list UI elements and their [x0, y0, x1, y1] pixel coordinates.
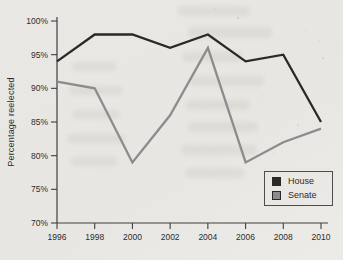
- x-tick-label: 2002: [161, 232, 180, 242]
- y-tick-label: 100%: [26, 16, 48, 26]
- y-tick-label: 80%: [31, 151, 48, 161]
- y-tick-label: 95%: [31, 50, 48, 60]
- senate-line: [57, 48, 321, 162]
- x-tick-label: 2010: [312, 232, 331, 242]
- reelection-line-chart: Percentage reelected 70%75%80%85%90%95%1…: [0, 0, 343, 260]
- x-tick-label: 2000: [123, 232, 142, 242]
- legend-item-senate: Senate: [272, 191, 327, 200]
- x-tick-label: 1996: [48, 232, 67, 242]
- y-tick-label: 90%: [31, 83, 48, 93]
- x-tick-label: 1998: [85, 232, 104, 242]
- x-tick-label: 2006: [236, 232, 255, 242]
- house-line: [57, 35, 321, 123]
- y-tick-label: 75%: [31, 184, 48, 194]
- x-tick-label: 2008: [274, 232, 293, 242]
- legend: House Senate: [264, 171, 333, 206]
- scanned-page: Percentage reelected 70%75%80%85%90%95%1…: [0, 0, 343, 260]
- y-tick-label: 85%: [31, 117, 48, 127]
- y-tick-label: 70%: [31, 218, 48, 228]
- y-axis-title: Percentage reelected: [6, 77, 16, 167]
- legend-item-house: House: [272, 177, 327, 186]
- house-color-swatch: [272, 177, 281, 186]
- series-lines: [57, 35, 321, 163]
- house-legend-label: House: [288, 177, 314, 186]
- senate-legend-label: Senate: [288, 191, 317, 200]
- x-tick-label: 2004: [198, 232, 217, 242]
- senate-color-swatch: [272, 191, 281, 200]
